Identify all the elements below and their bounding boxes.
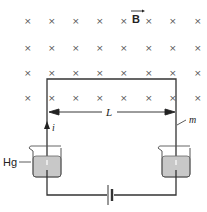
field-cross-icon: × bbox=[145, 68, 153, 78]
field-cross-icon: × bbox=[194, 68, 202, 78]
field-cross-icon: × bbox=[96, 68, 104, 78]
current-arrow-icon bbox=[44, 121, 50, 129]
b-label-text: B bbox=[132, 13, 140, 25]
field-cross-icon: × bbox=[145, 43, 153, 53]
current-label: i bbox=[52, 122, 55, 133]
field-cross-icon: × bbox=[145, 16, 153, 26]
field-cross-icon: × bbox=[169, 43, 177, 53]
field-cross-icon: × bbox=[120, 16, 128, 26]
battery-icon bbox=[108, 185, 112, 205]
field-cross-icon: × bbox=[24, 93, 32, 103]
field-cross-icon: × bbox=[72, 93, 80, 103]
field-cross-icon: × bbox=[145, 93, 153, 103]
field-cross-icon: × bbox=[194, 93, 202, 103]
mass-leader-line bbox=[177, 120, 186, 125]
field-cross-icon: × bbox=[48, 43, 56, 53]
field-cross-icon: × bbox=[194, 43, 202, 53]
field-cross-icon: × bbox=[24, 43, 32, 53]
field-cross-icon: × bbox=[48, 68, 56, 78]
field-cross-icon: × bbox=[169, 16, 177, 26]
field-cross-icon: × bbox=[169, 68, 177, 78]
mercury-label: Hg bbox=[3, 156, 17, 168]
field-cross-icon: × bbox=[24, 16, 32, 26]
b-field-label: B bbox=[131, 10, 145, 26]
field-cross-icon: × bbox=[24, 68, 32, 78]
field-cross-icon: × bbox=[194, 16, 202, 26]
field-cross-icon: × bbox=[48, 93, 56, 103]
field-cross-icon: × bbox=[48, 16, 56, 26]
field-cross-icon: × bbox=[72, 43, 80, 53]
field-cross-icon: × bbox=[96, 93, 104, 103]
magnetic-field-crosses: ×××××××××××××××××××××××××××××××× bbox=[24, 16, 202, 103]
field-cross-icon: × bbox=[120, 68, 128, 78]
left-beaker bbox=[29, 146, 61, 177]
rail-circuit-diagram: ×××××××××××××××××××××××××××××××× B L i m… bbox=[0, 0, 207, 212]
mass-label: m bbox=[189, 114, 196, 125]
field-cross-icon: × bbox=[96, 16, 104, 26]
field-cross-icon: × bbox=[120, 93, 128, 103]
field-cross-icon: × bbox=[72, 16, 80, 26]
field-cross-icon: × bbox=[96, 43, 104, 53]
right-beaker bbox=[158, 146, 190, 177]
wire-frame bbox=[47, 79, 176, 170]
field-cross-icon: × bbox=[120, 43, 128, 53]
length-label: L bbox=[105, 106, 112, 118]
field-cross-icon: × bbox=[72, 68, 80, 78]
